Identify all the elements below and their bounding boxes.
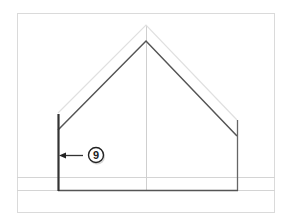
- roof-offset-ghost: [58, 25, 237, 120]
- drawing-canvas: [0, 0, 285, 223]
- callout-number: 9: [88, 147, 104, 163]
- arrowhead-icon: [59, 153, 66, 159]
- roof-outline: [58, 41, 237, 136]
